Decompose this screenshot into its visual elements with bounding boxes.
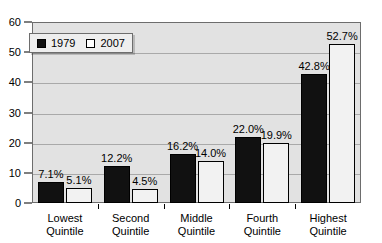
x-category-label-line: Quintile <box>112 225 149 238</box>
bar-chart: 0102030405060 7.1%5.1%12.2%4.5%16.2%14.0… <box>0 0 382 243</box>
x-category-label: LowestQuintile <box>46 212 83 238</box>
x-tick-mark <box>98 204 99 209</box>
x-category-label-line: Highest <box>309 212 346 225</box>
y-tick-label: 30 <box>9 107 21 119</box>
bar-value-label: 42.8% <box>298 60 329 72</box>
y-tick-mark <box>24 203 32 204</box>
bar-value-label: 4.5% <box>132 175 157 187</box>
bar-1979-fourth-quintile <box>235 137 261 203</box>
y-tick-label: 40 <box>9 76 21 88</box>
bar-value-label: 5.1% <box>66 174 91 186</box>
x-axis: LowestQuintileSecondQuintileMiddleQuinti… <box>32 204 361 243</box>
bar-value-label: 16.2% <box>167 140 198 152</box>
bar-2007-fourth-quintile <box>263 143 289 203</box>
bar-2007-second-quintile <box>132 189 158 203</box>
bar-1979-middle-quintile <box>170 154 196 203</box>
bar-value-label: 22.0% <box>233 123 264 135</box>
x-tick-mark <box>229 204 230 209</box>
bar-value-label: 14.0% <box>195 147 226 159</box>
legend-swatch-icon <box>37 39 46 48</box>
y-tick-label: 50 <box>9 46 21 58</box>
y-tick-mark <box>24 82 32 83</box>
y-axis: 0102030405060 <box>0 0 32 243</box>
x-category-label-line: Quintile <box>309 225 346 238</box>
x-category-label-line: Quintile <box>46 225 83 238</box>
bar-value-label: 12.2% <box>101 152 132 164</box>
x-category-label: HighestQuintile <box>309 212 346 238</box>
y-tick-label: 0 <box>15 197 21 209</box>
y-tick-mark <box>24 22 32 23</box>
x-tick-mark <box>164 204 165 209</box>
bar-2007-lowest-quintile <box>66 188 92 203</box>
bar-2007-middle-quintile <box>198 161 224 203</box>
bar-1979-lowest-quintile <box>38 182 64 203</box>
x-category-label-line: Fourth <box>244 212 281 225</box>
x-category-label-line: Middle <box>178 212 215 225</box>
bar-2007-highest-quintile <box>329 44 355 203</box>
x-category-label: FourthQuintile <box>244 212 281 238</box>
x-category-label-line: Lowest <box>46 212 83 225</box>
y-tick-label: 20 <box>9 137 21 149</box>
bar-value-label: 7.1% <box>38 168 63 180</box>
y-tick-label: 10 <box>9 167 21 179</box>
x-category-label: SecondQuintile <box>112 212 149 238</box>
legend-label: 1979 <box>51 37 75 49</box>
x-category-label: MiddleQuintile <box>178 212 215 238</box>
bar-value-label: 52.7% <box>326 30 357 42</box>
x-tick-mark <box>295 204 296 209</box>
bar-value-label: 19.9% <box>261 129 292 141</box>
x-category-label-line: Quintile <box>178 225 215 238</box>
x-category-label-line: Quintile <box>244 225 281 238</box>
bar-1979-highest-quintile <box>301 74 327 203</box>
y-tick-label: 60 <box>9 16 21 28</box>
x-category-label-line: Second <box>112 212 149 225</box>
bar-1979-second-quintile <box>104 166 130 203</box>
legend-label: 2007 <box>100 37 124 49</box>
y-tick-mark <box>24 112 32 113</box>
y-tick-mark <box>24 172 32 173</box>
legend-entry-1979: 1979 <box>37 37 75 49</box>
chart-legend: 19792007 <box>29 33 133 53</box>
legend-entry-2007: 2007 <box>86 37 124 49</box>
y-tick-mark <box>24 142 32 143</box>
legend-swatch-icon <box>86 39 95 48</box>
